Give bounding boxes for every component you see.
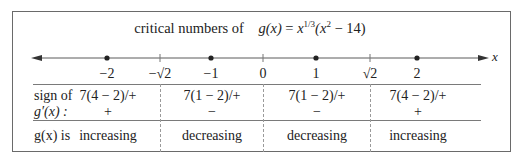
tick-label: 2 [414,66,421,82]
tick-label: −2 [100,66,115,82]
axis-left-arrow-icon [31,55,42,61]
table-middle-rule [33,120,481,121]
divider-sqrt2 [370,84,371,152]
critical-point-dot [104,55,109,60]
interval-4-behavior: increasing [389,128,447,144]
axis-right-arrow-icon [478,55,489,61]
interval-1-sign: + [104,104,112,120]
divider-neg-sqrt2 [160,84,161,152]
behavior-row-label: g(x) is [34,128,70,144]
interval-4-test: 7(4 − 2)/+ [389,88,446,104]
tick-label: 0 [260,66,267,82]
tick-label: √2 [363,66,378,82]
interval-2-sign: − [208,104,216,120]
interval-3-sign: − [313,104,321,120]
tick-label: −√2 [149,66,172,82]
critical-point-dot [313,55,318,60]
sign-row-label-line1: sign of [34,88,73,104]
tick-label: −1 [204,66,219,82]
tick-label: 1 [313,66,320,82]
critical-point-dot [208,55,213,60]
critical-point-dot [414,55,419,60]
table-top-rule [33,84,481,85]
sign-row-label-line2: g′(x) : [34,104,68,120]
interval-2-test: 7(1 − 2)/+ [183,88,240,104]
interval-2-behavior: decreasing [182,128,242,144]
interval-3-behavior: decreasing [287,128,347,144]
interval-3-test: 7(1 − 2)/+ [288,88,345,104]
divider-zero [263,84,264,152]
interval-1-behavior: increasing [79,128,137,144]
interval-4-sign: + [414,104,422,120]
axis-variable-label: x [492,49,498,65]
interval-1-test: 7(4 − 2)/+ [79,88,136,104]
